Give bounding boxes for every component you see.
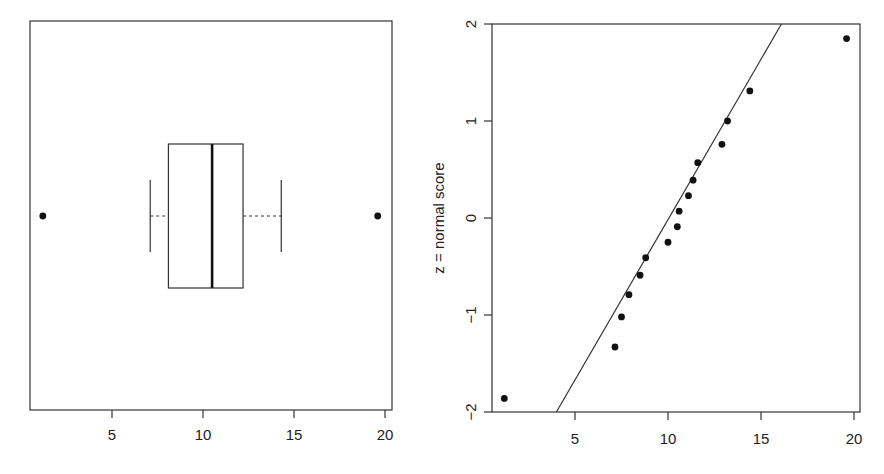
data-point bbox=[642, 254, 649, 261]
reference-line bbox=[556, 24, 781, 412]
data-point bbox=[719, 141, 726, 148]
y-tick-label: 2 bbox=[462, 20, 479, 28]
normal-probability-panel: 5101520 −2−1012 z = normal score bbox=[430, 20, 862, 447]
x-tick-label: 5 bbox=[571, 430, 579, 447]
data-point bbox=[690, 177, 697, 184]
data-point bbox=[618, 314, 625, 321]
data-point bbox=[746, 88, 753, 95]
reference-line bbox=[556, 24, 781, 412]
y-axis-title: z = normal score bbox=[430, 162, 447, 273]
x-tick-label: 15 bbox=[286, 426, 303, 443]
y-tick-label: 0 bbox=[462, 214, 479, 222]
data-point bbox=[676, 208, 683, 215]
x-tick-label: 15 bbox=[753, 430, 770, 447]
y-tick-label: −1 bbox=[462, 306, 479, 323]
outlier-point bbox=[39, 213, 46, 220]
outlier-point bbox=[374, 213, 381, 220]
x-axis: 5101520 bbox=[571, 412, 863, 447]
y-axis: −2−1012 bbox=[462, 20, 492, 421]
x-tick-label: 20 bbox=[377, 426, 394, 443]
data-point bbox=[626, 291, 633, 298]
data-point bbox=[724, 118, 731, 125]
x-axis: 5101520 bbox=[108, 410, 394, 443]
figure: 5101520 5101520 −2−1012 z = normal score bbox=[0, 0, 884, 474]
data-point bbox=[843, 35, 850, 42]
data-point bbox=[674, 223, 681, 230]
data-point bbox=[637, 272, 644, 279]
y-tick-label: 1 bbox=[462, 117, 479, 125]
data-point bbox=[694, 159, 701, 166]
data-point bbox=[685, 192, 692, 199]
boxplot-panel: 5101520 bbox=[30, 21, 393, 443]
data-point bbox=[501, 395, 508, 402]
y-tick-label: −2 bbox=[462, 403, 479, 420]
x-tick-label: 5 bbox=[108, 426, 116, 443]
data-point bbox=[665, 239, 672, 246]
iqr-box bbox=[168, 144, 243, 288]
data-point bbox=[612, 344, 619, 351]
x-tick-label: 10 bbox=[195, 426, 212, 443]
plot-frame bbox=[492, 24, 860, 412]
data-points bbox=[501, 35, 850, 402]
box bbox=[39, 144, 381, 288]
x-tick-label: 20 bbox=[846, 430, 863, 447]
x-tick-label: 10 bbox=[660, 430, 677, 447]
